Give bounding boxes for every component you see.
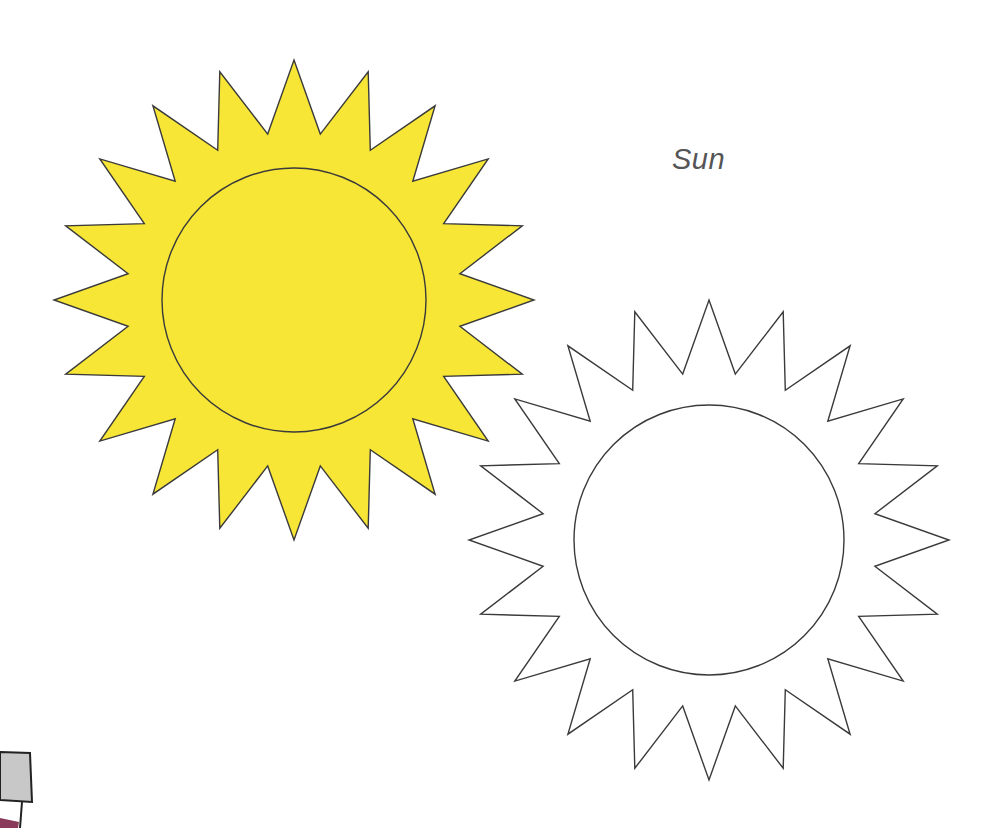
colored-sun-disc bbox=[162, 168, 426, 432]
worksheet-canvas: Sun bbox=[0, 0, 992, 828]
outline-sun-disc bbox=[574, 405, 844, 675]
partial-object-icon bbox=[0, 752, 32, 828]
colored-sun-icon bbox=[54, 60, 534, 540]
page-title: Sun bbox=[672, 143, 725, 176]
outline-sun-icon bbox=[469, 300, 949, 780]
illustration-layer bbox=[0, 0, 992, 828]
